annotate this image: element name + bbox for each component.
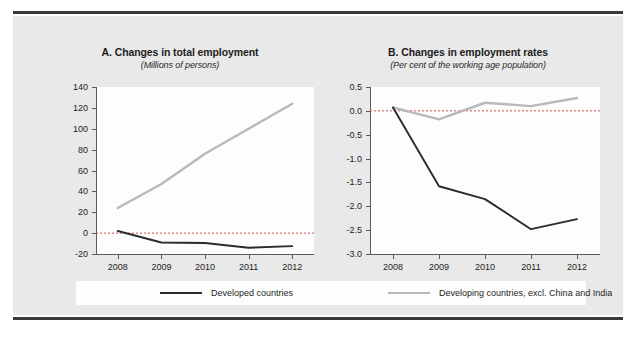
chart-a-y-tick-label: 0 xyxy=(54,228,88,238)
chart-a-x-tick-label: 2012 xyxy=(282,262,302,272)
figure-root: A. Changes in total employment (Millions… xyxy=(0,0,640,337)
bottom-divider xyxy=(13,317,623,320)
chart-a-y-tick-label: 60 xyxy=(54,166,88,176)
legend-label-developing: Developing countries, excl. China and In… xyxy=(439,288,612,298)
line-swatch-dark-icon xyxy=(160,292,202,294)
chart-a-series-layer xyxy=(96,87,314,254)
chart-a-y-tick-label: 120 xyxy=(54,103,88,113)
chart-b-x-tick-label: 2010 xyxy=(475,262,495,272)
chart-a-y-tick-label: 100 xyxy=(54,124,88,134)
chart-a-y-tick-label: 140 xyxy=(54,82,88,92)
legend-item-developing: Developing countries, excl. China and In… xyxy=(388,288,612,298)
chart-a-subtitle: (Millions of persons) xyxy=(35,60,325,70)
chart-b-y-tick-mark xyxy=(366,254,370,255)
top-divider xyxy=(13,11,623,14)
chart-a-x-tick-mark xyxy=(292,255,293,259)
chart-b-x-tick-mark xyxy=(439,255,440,259)
chart-a-plot-area: 140120100806040200-202008200920102011201… xyxy=(96,87,314,254)
legend-row: Developed countries Developing countries… xyxy=(76,281,586,305)
chart-b-y-tick-label: 0.0 xyxy=(328,106,362,116)
legend: Developed countries Developing countries… xyxy=(76,281,586,305)
chart-a-y-tick-label: 40 xyxy=(54,186,88,196)
chart-b-y-tick-label: 0.5 xyxy=(328,82,362,92)
chart-b-series-layer xyxy=(370,87,600,254)
legend-label-developed: Developed countries xyxy=(211,288,293,298)
chart-b-plot-area: 0.50.0-0.5-1.0-1.5-2.0-2.5-3.02008200920… xyxy=(370,87,600,254)
chart-a-x-tick-mark xyxy=(205,255,206,259)
chart-b-y-tick-label: -3.0 xyxy=(328,249,362,259)
chart-b-y-tick-label: -2.5 xyxy=(328,225,362,235)
chart-a-x-tick-mark xyxy=(249,255,250,259)
chart-a-y-tick-mark xyxy=(92,254,96,255)
chart-a-x-tick-label: 2011 xyxy=(239,262,258,272)
chart-a-line-developing xyxy=(118,104,292,208)
chart-b-x-tick-label: 2009 xyxy=(429,262,449,272)
chart-b-y-tick-label: -1.5 xyxy=(328,177,362,187)
chart-b-y-tick-label: -1.0 xyxy=(328,154,362,164)
chart-a: A. Changes in total employment (Millions… xyxy=(35,46,325,268)
chart-b-x-tick-label: 2008 xyxy=(383,262,403,272)
chart-b-y-tick-label: -2.0 xyxy=(328,201,362,211)
chart-b: B. Changes in employment rates (Per cent… xyxy=(323,46,613,268)
chart-a-title: A. Changes in total employment xyxy=(35,46,325,58)
chart-a-y-tick-label: 20 xyxy=(54,207,88,217)
chart-b-x-tick-label: 2011 xyxy=(521,262,540,272)
chart-a-x-tick-mark xyxy=(118,255,119,259)
figure-panel: A. Changes in total employment (Millions… xyxy=(13,16,623,315)
chart-b-x-tick-mark xyxy=(393,255,394,259)
chart-a-x-tick-label: 2010 xyxy=(195,262,215,272)
chart-b-x-tick-label: 2012 xyxy=(567,262,587,272)
line-swatch-gray-icon xyxy=(388,292,430,294)
chart-b-x-tick-mark xyxy=(577,255,578,259)
chart-b-x-tick-mark xyxy=(531,255,532,259)
chart-b-line-developing xyxy=(393,98,577,119)
chart-a-x-tick-mark xyxy=(161,255,162,259)
chart-a-y-tick-label: 80 xyxy=(54,145,88,155)
chart-b-title: B. Changes in employment rates xyxy=(323,46,613,58)
chart-b-line-developed xyxy=(393,108,577,230)
chart-b-subtitle: (Per cent of the working age population) xyxy=(323,60,613,70)
chart-a-x-tick-label: 2008 xyxy=(108,262,128,272)
chart-a-x-tick-label: 2009 xyxy=(151,262,171,272)
chart-a-y-tick-label: -20 xyxy=(54,249,88,259)
chart-b-x-tick-mark xyxy=(485,255,486,259)
legend-item-developed: Developed countries xyxy=(160,288,293,298)
chart-b-y-tick-label: -0.5 xyxy=(328,130,362,140)
